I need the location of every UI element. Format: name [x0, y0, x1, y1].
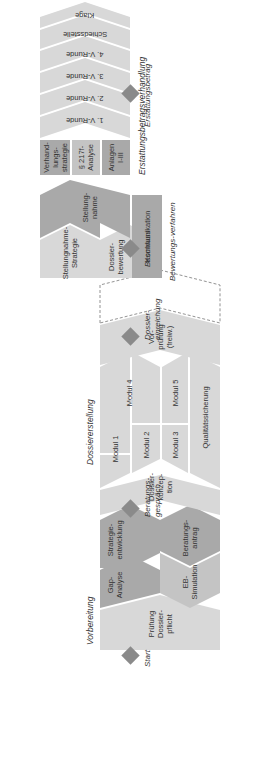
- milestone-beschluss-label: Beschluss: [143, 231, 153, 267]
- phase-label-vorbereitung: Vorbereitung: [85, 597, 95, 645]
- block-eb-simulation: EB-Simulation: [172, 559, 208, 605]
- block-modul-3: Modul 3: [162, 425, 188, 465]
- block-gap-analyse: Gap-Analyse: [100, 565, 130, 605]
- process-diagram: Vorbereitung Dossiererstellung Bewertung…: [0, 0, 280, 765]
- block-modul-4: Modul 4: [100, 363, 158, 423]
- block-modul-5: Modul 5: [162, 363, 188, 423]
- block-klage: Klage: [55, 5, 115, 27]
- block-modul-1: Modul 1: [100, 425, 130, 473]
- block-modul-2: Modul 2: [132, 425, 160, 465]
- block-beratungsantrag: Beratungs-antrag: [172, 513, 208, 563]
- block-strategieentwicklung: Strategie-entwicklung: [100, 515, 130, 565]
- block-verhandlungsstrategie: Verhand-lungs-strategie: [40, 140, 70, 175]
- block-stellungnahme: Stellung-nahme: [70, 185, 110, 230]
- block-qualitaetssicherung: Qualitätssicherung: [190, 360, 220, 475]
- phase-label-dossiererstellung: Dossiererstellung: [85, 399, 95, 465]
- milestone-start-label: Start: [143, 650, 153, 667]
- block-stellungnahme-strategie: Stellungnahme-Strategie: [40, 228, 100, 278]
- block-anlagen: Anlagen I-III: [102, 140, 130, 175]
- phase-label-bewertungsverfahren: Bewertungs-verfahren: [168, 233, 177, 281]
- block-pruefung-dossierpflicht: Prüfung Dossier-pflicht: [130, 601, 190, 647]
- milestone-erstattungsbetrag-label: Erstattungsbetrag: [143, 64, 153, 127]
- milestone-dossiereinreichung-label: Dossier-einreichung: [143, 290, 162, 340]
- block-217f-analyse: § 217f-Analyse: [72, 140, 100, 175]
- milestone-beratungsgespraech-label: Beratungs-gespräch: [143, 467, 162, 517]
